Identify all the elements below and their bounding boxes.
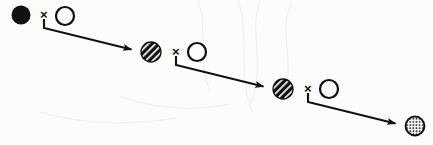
arrow-step-3 — [308, 93, 396, 124]
diagram-art-layer — [0, 0, 433, 145]
operator-times-3: × — [304, 82, 312, 95]
arrow-step-1 — [44, 19, 132, 50]
particle-open-reactant-1 — [56, 7, 74, 25]
operator-times-2: × — [172, 45, 180, 58]
particle-hatched-1 — [141, 42, 161, 62]
operator-times-1: × — [40, 8, 48, 21]
arrow-step-2 — [176, 56, 264, 87]
particle-open-reactant-3 — [320, 80, 338, 98]
particle-open-reactant-2 — [188, 43, 206, 61]
figure-canvas: × × × — [0, 0, 433, 145]
arrow-group — [44, 19, 396, 124]
particle-solid-initial — [12, 6, 31, 25]
particle-hatched-2 — [273, 79, 293, 99]
particle-stippled-final — [406, 117, 425, 136]
